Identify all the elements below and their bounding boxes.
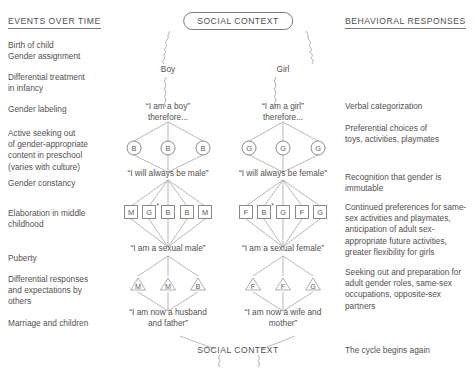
- boy-s2-q4: [168, 180, 187, 206]
- girl-square-node-3: F: [295, 205, 309, 219]
- heading-behavioral-responses: BEHAVIORAL RESPONSES: [345, 16, 466, 29]
- girl-square-node-1: B*: [257, 205, 271, 219]
- boy-s2-q5: [168, 180, 205, 206]
- boy-circle-node-2: B: [196, 141, 211, 156]
- girl-triangle-node-1: F: [275, 277, 292, 291]
- girl-s3-t3: [283, 256, 313, 276]
- girl-triangle-node-2: G: [305, 277, 322, 291]
- girl-triangle-node-0: F: [245, 277, 262, 291]
- wavy-capsule-to-girl: [306, 31, 313, 64]
- girl-s1-c1: [249, 122, 283, 141]
- girl-circle-node-0: G: [242, 141, 257, 156]
- boy-statement-1: “I am a boy” therefore...: [146, 101, 190, 122]
- girl-s2-q4: [283, 180, 302, 206]
- event-item-4: Gender constancy: [8, 178, 133, 189]
- asterisk-marker: *: [271, 202, 274, 209]
- event-item-1: Differential treatment in infancy: [8, 72, 133, 94]
- event-item-2: Gender labeling: [8, 104, 133, 115]
- event-item-8: Marriage and children: [8, 318, 133, 329]
- event-item-6: Puberty: [8, 253, 133, 264]
- boy-statement-4: “I am now a husband and father”: [129, 307, 206, 328]
- event-item-3: Active seeking out of gender-appropriate…: [8, 128, 133, 173]
- boy-circle-node-0: B: [127, 141, 142, 156]
- boy-square-node-1: G*: [142, 205, 156, 219]
- boy-s3-t3: [168, 256, 198, 276]
- asterisk-marker: *: [156, 202, 159, 209]
- girl-square-node-4: G: [313, 205, 327, 219]
- response-item-4: Seeking out and preparation for adult ge…: [345, 267, 473, 312]
- boy-circle-node-1: B: [161, 141, 176, 156]
- boy-square-node-2: B: [161, 205, 175, 219]
- boy-square-node-3: B: [180, 205, 194, 219]
- response-item-3: Continued preferences for same- sex acti…: [345, 202, 473, 258]
- girl-s3-t1: [253, 256, 283, 276]
- event-item-7: Differential responses and expectations …: [8, 274, 133, 308]
- heading-events-over-time: EVENTS OVER TIME: [8, 16, 101, 29]
- girl-statement-1: “I am a girl” therefore...: [262, 101, 304, 122]
- response-item-1: Preferential choices of toys, activities…: [345, 123, 473, 145]
- girl-circle-node-1: G: [276, 141, 291, 156]
- event-item-5: Elaboration in middle childhood: [8, 208, 133, 230]
- girl-label: Girl: [277, 64, 290, 75]
- girl-s1-c3: [283, 122, 318, 141]
- boy-label: Boy: [161, 64, 175, 75]
- boy-s2-q1: [131, 180, 168, 206]
- wavy-social-tail-left: [219, 355, 221, 367]
- wavy-capsule-to-boy: [163, 31, 170, 64]
- response-item-0: Verbal categorization: [345, 101, 473, 112]
- girl-statement-2: “I will always be female”: [239, 168, 327, 179]
- girl-square-node-0: F: [239, 205, 253, 219]
- boy-statement-2: “I will always be male”: [127, 168, 208, 179]
- boy-square-node-0: M: [124, 205, 138, 219]
- response-item-5: The cycle begins again: [345, 345, 473, 356]
- diagram-canvas: EVENTS OVER TIME BEHAVIORAL RESPONSES SO…: [0, 0, 476, 382]
- response-item-2: Recognition that gender is immutable: [345, 172, 473, 194]
- boy-s1-c3: [168, 122, 203, 141]
- girl-circle-node-2: G: [311, 141, 326, 156]
- boy-square-node-4: M: [198, 205, 212, 219]
- boy-statement-3: “I am a sexual male”: [130, 243, 205, 254]
- boy-triangle-node-1: M: [160, 277, 177, 291]
- boy-s1-c1: [134, 122, 168, 141]
- girl-statement-4: “I am now a wife and mother”: [245, 307, 322, 328]
- girl-statement-3: “I am a sexual female”: [242, 243, 324, 254]
- girl-s2-q5: [283, 180, 320, 206]
- boy-triangle-node-2: B: [190, 277, 207, 291]
- boy-s3-t1: [138, 256, 168, 276]
- wavy-social-tail-right: [258, 355, 260, 367]
- social-context-top: SOCIAL CONTEXT: [183, 12, 293, 30]
- girl-s2-q1: [246, 180, 283, 206]
- boy-triangle-node-0: M: [130, 277, 147, 291]
- event-item-0: Birth of child Gender assignment: [8, 40, 133, 62]
- girl-square-node-2: G: [276, 205, 290, 219]
- social-context-bottom: SOCIAL CONTEXT: [197, 345, 279, 355]
